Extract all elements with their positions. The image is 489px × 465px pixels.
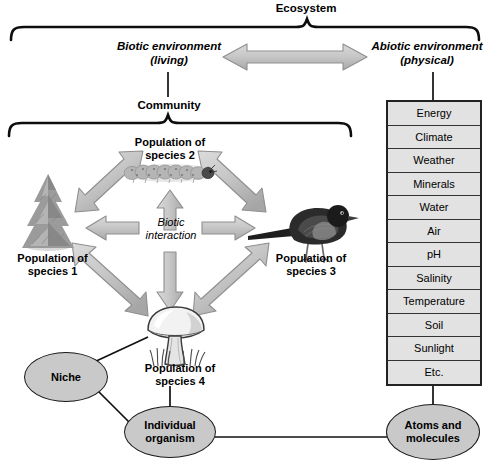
biotic-interaction-label: Biotic interaction (134, 216, 208, 242)
caterpillar-illustration (122, 164, 217, 183)
abiotic-factors-table: EnergyClimateWeatherMineralsWaterAirpHSa… (386, 100, 482, 386)
population-species4-label: Population of species 4 (126, 362, 234, 388)
biotic-abiotic-exchange-arrow (223, 44, 367, 70)
atoms-and-molecules-node: Atoms and molecules (386, 404, 480, 460)
abiotic-factor-row: Temperature (388, 290, 480, 314)
niche-node: Niche (24, 352, 108, 402)
abiotic-factor-row: Water (388, 196, 480, 220)
ecosystem-label: Ecosystem (246, 2, 366, 16)
mushroom-illustration (148, 307, 205, 367)
abiotic-factor-row: Salinity (388, 267, 480, 291)
ecology-hierarchy-diagram: Ecosystem Biotic environment (living) Ab… (0, 0, 489, 465)
arrow-center-to-species4 (157, 252, 183, 311)
abiotic-factor-row: Climate (388, 126, 480, 150)
abiotic-factor-row: Etc. (388, 361, 480, 385)
abiotic-factor-row: Weather (388, 149, 480, 173)
biotic-environment-label: Biotic environment (living) (104, 40, 234, 67)
abiotic-factor-row: pH (388, 243, 480, 267)
community-bracket (9, 115, 351, 136)
connector-niche-to-species4 (92, 337, 148, 363)
community-label: Community (113, 99, 225, 113)
abiotic-factor-row: Soil (388, 314, 480, 338)
connector-niche-to-individual (97, 390, 131, 424)
abiotic-factor-row: Sunlight (388, 337, 480, 361)
arrow-center-to-species1 (86, 216, 139, 240)
ecosystem-bracket (11, 19, 479, 40)
abiotic-factor-row: Minerals (388, 173, 480, 197)
population-species2-label: Population of species 2 (118, 136, 222, 162)
abiotic-factor-row: Energy (388, 102, 480, 126)
individual-organism-node: Individual organism (124, 406, 216, 458)
population-species3-label: Population of species 3 (258, 252, 364, 278)
population-species1-label: Population of species 1 (0, 252, 105, 278)
arrow-center-to-species3 (202, 216, 255, 240)
abiotic-environment-label: Abiotic environment (physical) (366, 40, 488, 67)
conifer-tree-illustration (22, 174, 74, 251)
abiotic-factor-row: Air (388, 220, 480, 244)
